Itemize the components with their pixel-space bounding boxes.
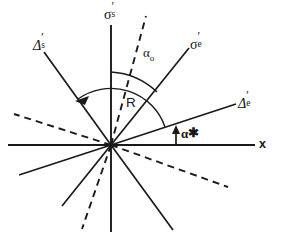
sigma-e-prime-sub: ′e: [198, 35, 205, 49]
alpha-star-arrowhead: [172, 125, 180, 134]
diagram-canvas: σ′s σ′e Δ′s Δ′e αo R α✱ x: [0, 0, 281, 242]
delta-s-prime-sub: ′s: [41, 36, 48, 50]
delta-e-glyph: Δ: [238, 96, 246, 111]
delta-e-ray: [111, 104, 236, 145]
sigma-s-label: σ′s: [104, 5, 119, 22]
sigma-e-subscript: e: [198, 40, 202, 50]
alpha-0-label: αo: [143, 46, 154, 63]
delta-e-ray-opposite: [19, 145, 111, 175]
sigma-e-ray-opposite: [62, 145, 111, 206]
dashed-transverse-ray-opposite: [111, 145, 228, 187]
alpha-star-label: α✱: [181, 126, 199, 140]
sigma-s-subscript: s: [112, 10, 116, 20]
delta-s-ray: [44, 52, 111, 145]
x-axis-label: x: [259, 138, 266, 151]
sigma-s-glyph: σ: [104, 7, 112, 22]
delta-s-ray-opposite: [111, 145, 173, 230]
alpha-0-subscript: o: [150, 53, 155, 63]
delta-s-label: Δ′s: [33, 36, 48, 53]
alpha-star-asterisk: ✱: [188, 125, 199, 140]
alpha-0-glyph: α: [143, 45, 150, 60]
sigma-s-prime-sub: ′s: [112, 5, 119, 19]
R-label: R: [126, 96, 136, 110]
delta-e-label: Δ′e: [238, 94, 253, 111]
delta-s-glyph: Δ: [33, 38, 41, 53]
sigma-e-label: σ′e: [190, 35, 205, 52]
delta-e-prime-sub: ′e: [246, 94, 253, 108]
sigma-e-glyph: σ: [190, 37, 198, 52]
dashed-transverse-ray: [14, 114, 111, 145]
dashed-bisector-ray-opposite: [82, 145, 111, 229]
delta-s-subscript: s: [41, 41, 45, 51]
delta-e-subscript: e: [246, 99, 250, 109]
